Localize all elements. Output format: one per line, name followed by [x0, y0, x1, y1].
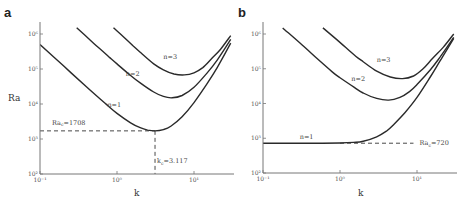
- y-tick-label: 10³: [251, 134, 262, 141]
- critical-k-label: kc=3.117: [157, 157, 188, 166]
- x-axis-label-a: k: [134, 188, 140, 198]
- y-tick-label: 10⁶: [251, 30, 262, 37]
- annotations-b: Rac=720: [340, 139, 449, 148]
- curves-b: [263, 28, 454, 143]
- y-tick-label: 10³: [28, 135, 39, 142]
- y-axis-label-a: Ra: [8, 93, 21, 103]
- x-axis-label-b: k: [358, 188, 364, 198]
- y-tick-label: 10⁶: [28, 30, 39, 37]
- x-tick-label: 10⁰: [335, 175, 346, 182]
- curves-a: [40, 28, 231, 131]
- series-label: n=1: [107, 101, 121, 109]
- y-tick-label: 10⁵: [251, 65, 262, 72]
- x-tick-label: 10⁰: [112, 176, 123, 183]
- axes-a: [40, 22, 234, 174]
- y-tick-label: 10⁴: [28, 100, 39, 107]
- series-label: n=3: [377, 56, 391, 64]
- series-label: n=3: [163, 53, 177, 61]
- x-tick-label: 10¹: [189, 176, 199, 183]
- series-label: n=2: [126, 70, 140, 78]
- y-tick-label: 10⁴: [251, 100, 262, 107]
- panel-label-b: b: [238, 5, 246, 20]
- panel-a: a Ra k 10²10³10⁴10⁵10⁶10⁻¹10⁰10¹ Rac=170…: [4, 5, 234, 198]
- y-tick-label: 10⁵: [28, 65, 39, 72]
- x-tick-label: 10⁻¹: [33, 176, 46, 183]
- annotations-a: Rac=1708kc=3.117: [40, 119, 188, 174]
- axes-b: [263, 22, 457, 173]
- curve-n1: [40, 43, 231, 131]
- critical-ra-label: Rac=1708: [52, 119, 85, 128]
- panel-b: b k 10²10³10⁴10⁵10⁶10⁻¹10⁰10¹ Rac=720 n=…: [238, 5, 457, 198]
- x-tick-label: 10⁻¹: [256, 175, 269, 182]
- critical-ra-label: Rac=720: [419, 139, 448, 148]
- ticks-b: 10²10³10⁴10⁵10⁶10⁻¹10⁰10¹: [251, 30, 422, 182]
- curve-n3: [114, 28, 231, 75]
- x-tick-label: 10¹: [412, 175, 422, 182]
- series-label: n=2: [351, 75, 365, 83]
- figure: a Ra k 10²10³10⁴10⁵10⁶10⁻¹10⁰10¹ Rac=170…: [0, 0, 473, 205]
- panel-label-a: a: [4, 5, 12, 20]
- series-label: n=1: [300, 133, 314, 141]
